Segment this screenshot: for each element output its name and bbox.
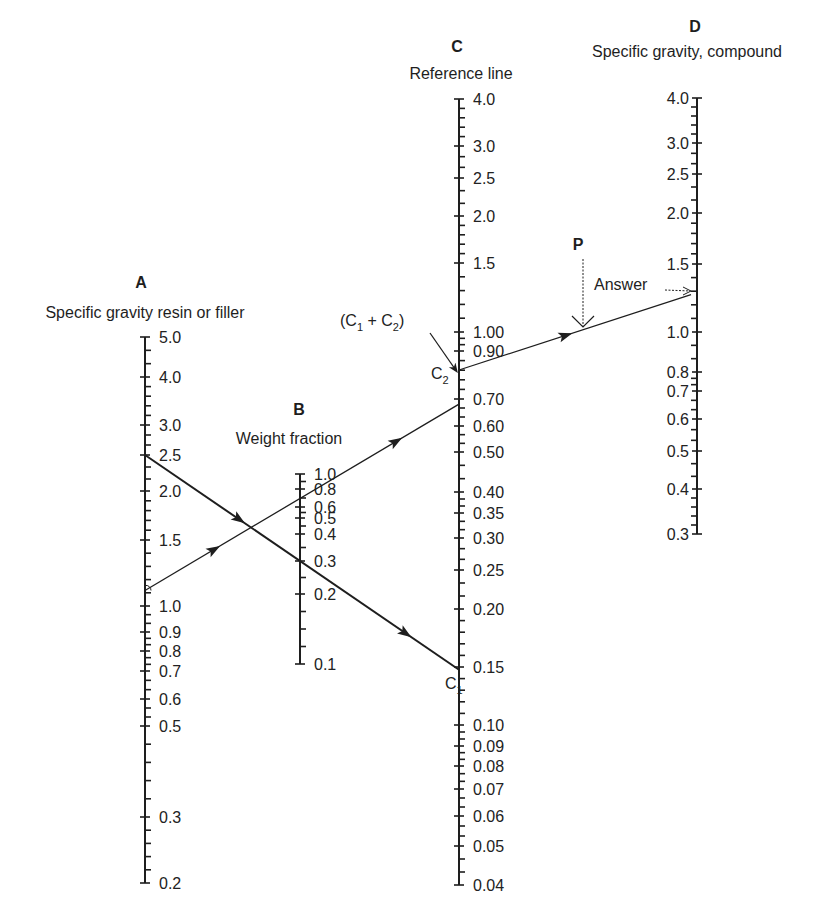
sum-open: (C (340, 312, 357, 329)
tick-label: 0.25 (473, 562, 504, 579)
tick-label: 0.10 (473, 717, 504, 734)
c1-plus-c2-pointer-arrow (430, 333, 455, 369)
answer-label: Answer (594, 276, 648, 293)
axis-c: 4.03.02.52.01.51.000.900.700.600.500.400… (454, 91, 504, 894)
c1-subscript: 1 (457, 684, 463, 696)
tick-label: 0.7 (667, 383, 689, 400)
tick-label: 0.8 (667, 364, 689, 381)
c1-letter: C (445, 675, 457, 692)
tick-label: 0.07 (473, 781, 504, 798)
tick-label: 2.0 (667, 205, 689, 222)
tick-label: 0.15 (473, 659, 504, 676)
tick-label: 0.5 (159, 718, 181, 735)
tick-label: 1.5 (473, 255, 495, 272)
c2-letter: C (431, 365, 443, 382)
tick-label: 0.1 (314, 656, 336, 673)
tick-label: 4.0 (473, 91, 495, 108)
tick-label: 1.00 (473, 324, 504, 341)
tick-label: 1.5 (667, 256, 689, 273)
tick-label: 0.2 (314, 586, 336, 603)
tick-label: 0.9 (159, 624, 181, 641)
tick-label: 3.0 (667, 135, 689, 152)
tick-label: 0.2 (159, 875, 181, 892)
tick-label: 0.06 (473, 808, 504, 825)
c2-label: C2 (431, 365, 449, 386)
c2-subscript: 2 (443, 374, 449, 386)
sum-close: ) (399, 312, 404, 329)
tick-label: 1.0 (667, 324, 689, 341)
axis-b-title: Weight fraction (236, 430, 342, 447)
tick-label: 0.20 (473, 601, 504, 618)
axis-a-letter: A (135, 274, 147, 291)
tick-label: 1.0 (159, 598, 181, 615)
p-label: P (573, 236, 584, 253)
tick-label: 0.60 (473, 418, 504, 435)
tick-label: 0.8 (159, 643, 181, 660)
axis-c-letter: C (451, 38, 463, 55)
tick-label: 0.09 (473, 738, 504, 755)
sum-plus: + C (363, 312, 393, 329)
tick-label: 0.70 (473, 391, 504, 408)
answer-pointer-line (665, 290, 690, 291)
tick-label: 0.5 (314, 510, 336, 527)
tick-label: 1.5 (159, 532, 181, 549)
tick-label: 0.04 (473, 877, 504, 894)
axis-d: 4.03.02.52.01.51.00.80.70.60.50.40.3 (667, 90, 702, 543)
p-pointer-arrowhead (572, 316, 594, 327)
tick-label: 3.0 (159, 417, 181, 434)
tick-label: 0.6 (667, 411, 689, 428)
tick-label: 0.40 (473, 484, 504, 501)
tick-label: 0.6 (159, 691, 181, 708)
tick-label: 2.5 (473, 170, 495, 187)
nomograph: A Specific gravity resin or filler B Wei… (0, 0, 827, 912)
tick-label: 4.0 (159, 369, 181, 386)
tick-label: 5.0 (159, 329, 181, 346)
tick-label: 2.0 (159, 483, 181, 500)
tick-label: 0.35 (473, 505, 504, 522)
c1-plus-c2-label: (C1 + C2) (340, 312, 404, 333)
tick-label: 0.08 (473, 758, 504, 775)
axis-d-letter: D (689, 18, 701, 35)
tick-label: 0.30 (473, 530, 504, 547)
tick-label: 2.5 (159, 447, 181, 464)
tick-label: 0.3 (314, 553, 336, 570)
tick-label: 0.5 (667, 443, 689, 460)
direction-arrowhead (231, 511, 248, 527)
tick-label: 0.4 (314, 526, 336, 543)
tick-label: 0.4 (667, 481, 689, 498)
tick-label: 2.0 (473, 208, 495, 225)
direction-arrowhead (558, 328, 574, 342)
tick-label: 3.0 (473, 138, 495, 155)
tick-label: 4.0 (667, 90, 689, 107)
direction-arrowhead (206, 542, 223, 558)
axis-c-title: Reference line (409, 65, 512, 82)
axis-a-title: Specific gravity resin or filler (45, 304, 245, 321)
tick-label: 2.5 (667, 166, 689, 183)
axis-a: 5.04.03.02.52.01.51.00.90.80.70.60.50.30… (140, 329, 181, 892)
axis-d-title: Specific gravity, compound (592, 43, 782, 60)
direction-arrowhead (397, 625, 414, 641)
construction-lines (145, 295, 691, 670)
tick-label: 0.50 (473, 444, 504, 461)
tick-label: 0.3 (667, 526, 689, 543)
tick-label: 0.3 (159, 809, 181, 826)
tick-label: 0.7 (159, 663, 181, 680)
tick-label: 0.05 (473, 838, 504, 855)
axis-b-letter: B (293, 401, 305, 418)
direction-arrowhead (388, 433, 405, 449)
